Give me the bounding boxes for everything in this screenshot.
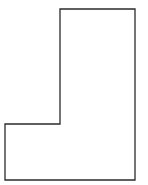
l-shaped-polygon [5, 9, 135, 180]
l-shape-diagram [0, 0, 148, 185]
